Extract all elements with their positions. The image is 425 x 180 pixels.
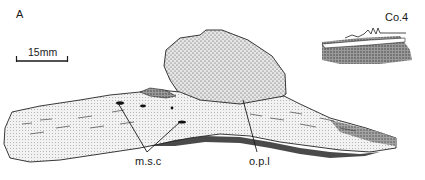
annotation-opl: o.p.l [249,156,270,167]
inset-specimen [322,28,412,64]
panel-label: A [16,9,23,20]
scale-bar-label: 15mm [28,47,57,58]
inset-label: Co.4 [385,12,408,23]
specimen-illustration [0,0,425,180]
annotation-msc: m.s.c [135,156,161,167]
